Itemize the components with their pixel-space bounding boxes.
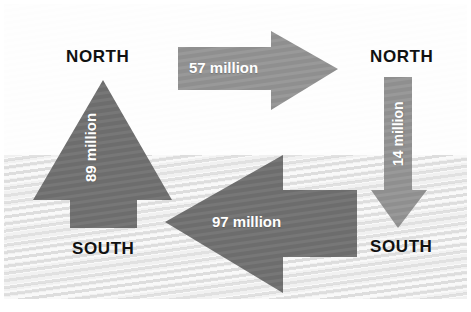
region-label-north-left: NORTH (66, 48, 129, 65)
flow-value-north-to-south-right: 14 million (391, 101, 405, 166)
region-label-south-left: SOUTH (72, 240, 135, 257)
flow-value-south-to-north-left: 89 million (83, 113, 98, 182)
arrow-south-to-north-left (33, 80, 172, 228)
flow-value-south-to-south: 97 million (212, 214, 281, 229)
region-label-south-right: SOUTH (370, 238, 433, 255)
flow-value-north-to-north: 57 million (189, 60, 258, 75)
region-label-north-right: NORTH (370, 48, 433, 65)
migration-flow-diagram: NORTH SOUTH NORTH SOUTH 57 million 89 mi… (0, 0, 471, 312)
